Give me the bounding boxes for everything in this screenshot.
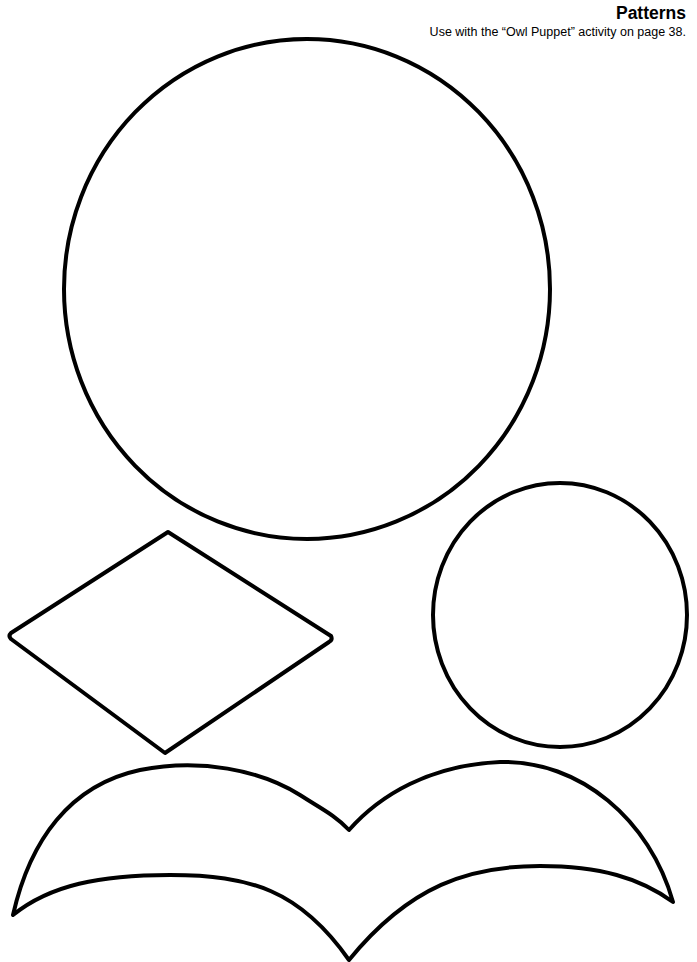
small-circle-pattern [433, 483, 687, 747]
wings-pattern [13, 762, 673, 960]
large-circle-pattern [64, 39, 550, 539]
pattern-shapes [0, 0, 697, 962]
diamond-pattern [10, 532, 332, 753]
